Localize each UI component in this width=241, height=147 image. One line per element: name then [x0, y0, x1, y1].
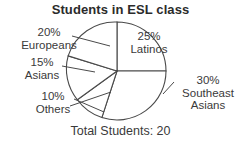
slice-label-others-percent: 10%: [18, 90, 88, 103]
slice-label-southeast-name-line1: Southeast: [176, 87, 240, 100]
slice-label-southeast-percent: 30%: [176, 74, 240, 87]
slice-label-latinos-percent: 25%: [118, 30, 180, 43]
slice-label-asians: 15% Asians: [6, 56, 78, 81]
slice-label-latinos-name: Latinos: [118, 43, 180, 56]
slice-label-asians-name: Asians: [6, 69, 78, 82]
slice-label-europeans-percent: 20%: [8, 26, 90, 39]
pie-chart-figure: Students in ESL class 25% Latinos 30% So…: [0, 0, 241, 147]
slice-label-others: 10% Others: [18, 90, 88, 115]
slice-label-southeast-name-line2: Asians: [176, 99, 240, 112]
slice-label-latinos: 25% Latinos: [118, 30, 180, 55]
slice-label-asians-percent: 15%: [6, 56, 78, 69]
total-students-caption: Total Students: 20: [0, 124, 241, 138]
slice-label-europeans: 20% Europeans: [8, 26, 90, 51]
slice-label-southeast-asians: 30% Southeast Asians: [176, 74, 240, 112]
slice-label-europeans-name: Europeans: [8, 39, 90, 52]
slice-label-others-name: Others: [18, 103, 88, 116]
